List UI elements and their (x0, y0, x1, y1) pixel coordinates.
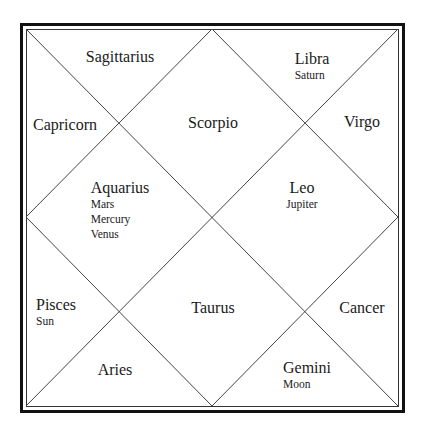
birth-chart: Sagittarius Libra Saturn Capricorn Scorp… (0, 0, 425, 431)
sign-label: Cancer (339, 299, 384, 317)
planet-label: Sun (36, 314, 76, 329)
planet-label: Venus (91, 227, 150, 242)
sign-label: Aquarius (91, 179, 150, 197)
sign-label: Scorpio (188, 114, 238, 132)
house-libra: Libra Saturn (295, 50, 330, 83)
house-scorpio: Scorpio (188, 114, 238, 132)
planet-label: Mars (91, 197, 150, 212)
sign-label: Leo (286, 179, 317, 197)
planet-label: Moon (283, 377, 331, 392)
sign-label: Virgo (344, 113, 380, 131)
sign-label: Gemini (283, 359, 331, 377)
planet-label: Saturn (295, 68, 330, 83)
house-capricorn: Capricorn (33, 116, 97, 134)
sign-label: Capricorn (33, 116, 97, 134)
sign-label: Pisces (36, 296, 76, 314)
sign-label: Libra (295, 50, 330, 68)
house-aries: Aries (98, 361, 133, 379)
sign-label: Taurus (191, 299, 234, 317)
house-aquarius: Aquarius Mars Mercury Venus (91, 179, 150, 242)
house-sagittarius: Sagittarius (86, 48, 154, 66)
planet-label: Mercury (91, 212, 150, 227)
house-virgo: Virgo (344, 113, 380, 131)
planet-label: Jupiter (286, 197, 317, 212)
house-pisces: Pisces Sun (36, 296, 76, 329)
house-taurus: Taurus (191, 299, 234, 317)
house-cancer: Cancer (339, 299, 384, 317)
sign-label: Sagittarius (86, 48, 154, 66)
sign-label: Aries (98, 361, 133, 379)
house-gemini: Gemini Moon (283, 359, 331, 392)
chart-grid-lines (0, 0, 425, 431)
house-leo: Leo Jupiter (286, 179, 317, 212)
